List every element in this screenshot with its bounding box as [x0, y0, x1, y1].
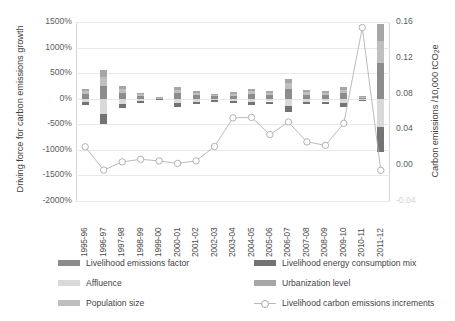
line-marker	[174, 160, 180, 166]
y-tick-label-right: 0.08	[396, 88, 413, 98]
plot-area	[76, 22, 390, 201]
legend-swatch	[58, 260, 80, 266]
legend-item[interactable]: Livelihood energy consumption mix	[254, 258, 416, 268]
line-marker	[230, 115, 236, 121]
chart-legend: Livelihood emissions factorAffluencePopu…	[58, 258, 448, 314]
line-marker	[267, 131, 273, 137]
y-tick-label-right: 0.12	[396, 52, 413, 62]
line-marker	[322, 142, 328, 148]
x-tick-label: 2006-07	[282, 228, 292, 257]
y-tick-label-left: -2000%	[42, 195, 72, 205]
x-tick-label: 1997-98	[116, 228, 126, 257]
x-tick-label: 1995-96	[79, 228, 89, 257]
line-series	[76, 22, 390, 201]
y-tick-label-left: 1000%	[45, 42, 72, 52]
line-marker	[119, 159, 125, 165]
legend-label: Livelihood emissions factor	[86, 258, 189, 268]
legend-label: Affluence	[86, 278, 122, 288]
x-axis-ticks: 1995-961996-971997-981998-991999-002000-…	[76, 203, 390, 257]
x-tick-label: 2000-01	[172, 228, 182, 257]
line-marker	[359, 24, 365, 30]
chart-figure: Driving force for carbon emissions growt…	[0, 0, 455, 321]
y-tick-label-left: -1500%	[42, 169, 72, 179]
y-tick-label-right: 0.04	[396, 123, 413, 133]
line-marker	[193, 158, 199, 164]
y-tick-label-left: 1500%	[45, 16, 72, 26]
legend-swatch	[58, 280, 80, 286]
y-tick-label-left: 500%	[50, 67, 72, 77]
x-tick-label: 2003-04	[227, 228, 237, 257]
x-tick-label: 2009-10	[338, 228, 348, 257]
line-marker	[156, 158, 162, 164]
legend-label: Urbanization level	[282, 278, 350, 288]
x-tick-label: 2004-05	[246, 228, 256, 257]
line-marker	[101, 167, 107, 173]
x-tick-label: 2002-03	[209, 228, 219, 257]
legend-item[interactable]: Urbanization level	[254, 278, 350, 288]
x-tick-label: 1998-99	[135, 228, 145, 257]
y-axis-ticks-right: -0.040.000.040.080.120.16	[396, 22, 436, 201]
line-marker	[82, 144, 88, 150]
legend-item[interactable]: Livelihood carbon emissions increments	[254, 298, 434, 308]
line-marker	[378, 167, 384, 173]
y-axis-ticks-left: -2000%-1500%-1000%-500%0%500%1000%1500%	[24, 22, 72, 201]
line-marker	[304, 139, 310, 145]
legend-swatch	[58, 300, 80, 306]
y-tick-label-right: -0.04	[396, 195, 416, 205]
legend-swatch	[254, 260, 276, 266]
legend-swatch	[254, 280, 276, 286]
y-tick-label-right: 0.16	[396, 16, 413, 26]
legend-item[interactable]: Affluence	[58, 278, 122, 288]
y-tick-label-right: 0.00	[396, 159, 413, 169]
x-tick-label: 2010-11	[356, 228, 366, 257]
line-marker	[211, 143, 217, 149]
x-tick-label: 2011-12	[375, 228, 385, 257]
x-tick-label: 2001-02	[190, 228, 200, 257]
y-tick-label-left: 0%	[60, 93, 72, 103]
y-tick-label-left: -1000%	[42, 144, 72, 154]
gridline	[76, 201, 390, 202]
line-path	[85, 28, 381, 171]
line-marker	[341, 120, 347, 126]
x-tick-label: 2008-09	[319, 228, 329, 257]
line-marker	[285, 119, 291, 125]
legend-line-marker-icon	[254, 300, 276, 307]
line-marker	[248, 114, 254, 120]
legend-label: Livelihood carbon emissions increments	[282, 298, 434, 308]
legend-label: Population size	[86, 298, 144, 308]
x-tick-label: 1996-97	[98, 228, 108, 257]
legend-label: Livelihood energy consumption mix	[282, 258, 416, 268]
x-tick-label: 2005-06	[264, 228, 274, 257]
x-tick-label: 1999-00	[153, 228, 163, 257]
y-tick-label-left: -500%	[47, 118, 72, 128]
line-marker	[137, 156, 143, 162]
legend-item[interactable]: Livelihood emissions factor	[58, 258, 189, 268]
x-tick-label: 2007-08	[301, 228, 311, 257]
legend-item[interactable]: Population size	[58, 298, 144, 308]
